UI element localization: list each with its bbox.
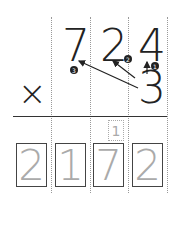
answer-box-ones[interactable]: 2: [132, 143, 163, 187]
svg-text:1: 1: [153, 63, 157, 70]
answer-box-thousands[interactable]: 2: [16, 143, 47, 187]
svg-text:2: 2: [126, 56, 130, 63]
svg-text:3: 3: [72, 67, 76, 74]
answer-box-tens[interactable]: 7: [93, 143, 124, 187]
answer-box-hundreds[interactable]: 1: [55, 143, 86, 187]
result-line: [13, 116, 167, 117]
carry-box[interactable]: 1: [108, 120, 124, 141]
